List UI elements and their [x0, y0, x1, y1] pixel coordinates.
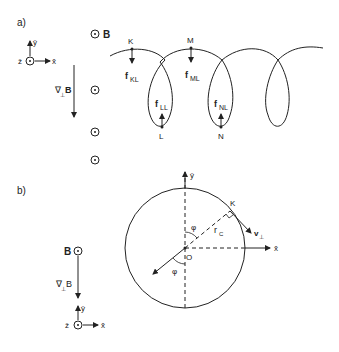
force-direction-arrow: [153, 248, 185, 274]
trajectory-curve: [110, 47, 323, 126]
gradient-b-b: B: [66, 279, 72, 289]
angle-label-upper: φ: [191, 223, 196, 232]
x-axis-label-circle: x̂: [274, 244, 278, 253]
origin-label: O: [186, 253, 192, 262]
panel-a-label: a): [17, 17, 26, 28]
point-n-a: N: [218, 132, 224, 141]
force-ll-sub: LL: [160, 104, 168, 111]
velocity-sub: ⊥: [259, 234, 264, 240]
force-ml-f: f: [185, 70, 189, 80]
z-axis-label-b: ẑ: [65, 321, 69, 330]
angle-label-lower: φ: [172, 267, 177, 276]
angle-arc-lower: [173, 258, 185, 264]
x-axis-label-b: x̂: [101, 321, 105, 330]
right-angle-marker: [226, 214, 233, 218]
axes-triad-b: ŷ ẑ x̂: [65, 304, 105, 330]
x-axis-label-a: x̂: [52, 57, 56, 66]
angle-arc-upper: [185, 232, 197, 238]
force-nl-f: f: [214, 99, 218, 109]
force-kl-f: f: [125, 71, 129, 81]
y-axis-label-b: ŷ: [81, 304, 85, 313]
force-kl-sub: KL: [130, 76, 139, 83]
y-axis-label-circle: ŷ: [190, 171, 194, 180]
point-k-b: K: [230, 199, 236, 208]
b-field-label-b: B: [64, 246, 71, 257]
point-k-a: K: [128, 37, 134, 46]
radius-label: r: [214, 225, 217, 235]
gradient-b-a: B: [65, 85, 72, 95]
force-ll-f: f: [155, 99, 159, 109]
point-m-a: M: [187, 36, 194, 45]
b-field-label-a: B: [103, 29, 110, 40]
axes-triad-a: ŷ ẑ x̂: [18, 38, 56, 66]
force-nl-sub: NL: [219, 104, 228, 111]
force-ml-sub: ML: [190, 75, 200, 82]
point-l-a: L: [159, 132, 164, 141]
b-field-dots: [91, 30, 99, 164]
y-axis-label-a: ŷ: [33, 38, 37, 47]
panel-b-label: b): [17, 185, 26, 196]
radius-sub: C: [219, 231, 224, 237]
z-axis-label-a: ẑ: [18, 57, 22, 66]
velocity-arrow: [230, 211, 251, 233]
diagram-canvas: a) ŷ ẑ x̂ B ∇ ⊥ B K f KL M f ML f LL L f…: [0, 0, 339, 352]
